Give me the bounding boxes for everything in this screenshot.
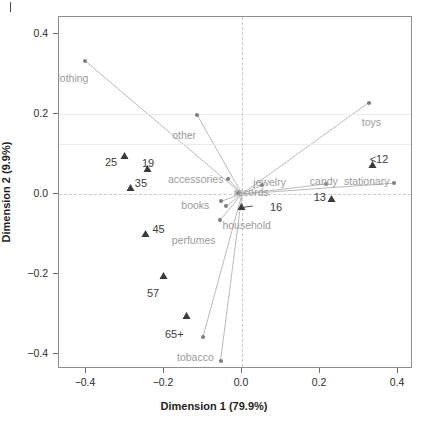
x-axis-title: Dimension 1 (79.9%) <box>0 400 428 412</box>
y-axis-tick-label: 0.4 <box>16 27 48 39</box>
data-point-label: books <box>181 200 209 211</box>
x-axis-tick <box>397 368 398 373</box>
data-point-label: clothing <box>58 73 88 84</box>
data-point-marker <box>392 181 396 185</box>
data-point-marker <box>219 199 223 203</box>
data-point-marker <box>219 359 223 363</box>
data-point-label: 25 <box>105 157 117 168</box>
y-axis-tick <box>53 33 58 34</box>
data-point-marker <box>83 59 87 63</box>
gridline-horizontal <box>59 144 411 145</box>
x-axis-tick <box>319 368 320 373</box>
data-point-label: 16 <box>270 202 282 213</box>
y-axis-tick-label: −0.2 <box>16 267 48 279</box>
data-point-label: 13 <box>314 192 326 203</box>
data-point-marker <box>224 204 228 208</box>
data-point-label: 19 <box>142 158 154 169</box>
corner-artifact-mark <box>10 2 11 12</box>
data-point-label: toys <box>362 117 381 128</box>
origin-link-line <box>203 194 242 337</box>
data-point-label: <12 <box>370 154 389 165</box>
data-point-label: household <box>222 220 270 231</box>
data-point-marker <box>218 218 222 222</box>
data-point-label: perfumes <box>172 235 216 246</box>
data-point-label: 35 <box>135 178 147 189</box>
data-point-label: records <box>234 187 269 198</box>
x-axis-tick-label: 0.0 <box>234 376 249 388</box>
data-point-label: accessories <box>168 174 223 185</box>
data-point-label: 57 <box>147 288 159 299</box>
data-point-marker <box>226 177 230 181</box>
x-axis-tick <box>85 368 86 373</box>
x-axis-tick-label: 0.2 <box>312 376 327 388</box>
data-point-marker <box>126 184 134 191</box>
y-axis-tick <box>53 193 58 194</box>
data-point-marker <box>367 101 371 105</box>
data-point-label: candy <box>310 176 338 187</box>
y-axis-tick-label: −0.4 <box>16 347 48 359</box>
data-point-marker <box>195 113 199 117</box>
data-point-marker <box>160 272 168 279</box>
gridline-horizontal <box>59 114 411 115</box>
y-axis-tick <box>53 353 58 354</box>
data-point-marker <box>201 335 205 339</box>
data-point-marker <box>142 230 150 237</box>
data-point-label: 45 <box>152 224 164 235</box>
plot-panel: clothingothertoysaccessoriesjewelrycandy… <box>58 16 412 368</box>
x-axis-tick-label: 0.4 <box>390 376 405 388</box>
correspondence-analysis-biplot: clothingothertoysaccessoriesjewelrycandy… <box>0 0 428 425</box>
data-point-marker <box>183 312 191 319</box>
x-axis-tick-label: −0.4 <box>75 376 96 388</box>
x-axis-tick <box>163 368 164 373</box>
data-point-marker <box>238 203 246 210</box>
y-axis-tick-label: 0.2 <box>16 107 48 119</box>
y-axis-tick-label: 0.0 <box>16 187 48 199</box>
x-axis-tick-label: −0.2 <box>153 376 174 388</box>
x-axis-tick <box>241 368 242 373</box>
data-point-label: 65+ <box>165 329 184 340</box>
data-point-label: tobacco <box>177 352 214 363</box>
data-point-marker <box>327 195 335 202</box>
y-axis-tick <box>53 273 58 274</box>
y-axis-title: Dimension 2 (9.9%) <box>0 142 12 243</box>
data-point-label: other <box>172 130 196 141</box>
data-point-label: stationary <box>344 176 390 187</box>
data-point-marker <box>121 152 129 159</box>
y-axis-tick <box>53 113 58 114</box>
